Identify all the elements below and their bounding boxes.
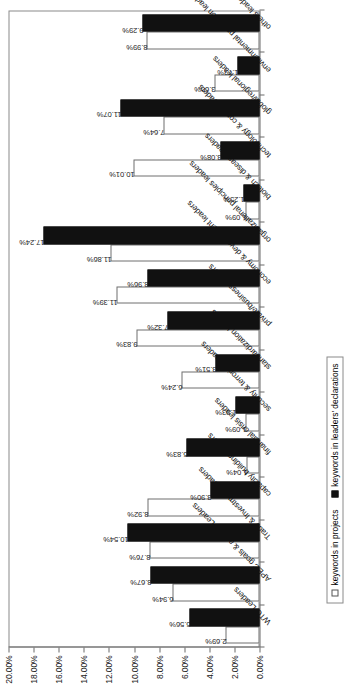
rotated-figure-wrapper: 2.69%5.56%6.94%8.67%8.76%10.54%8.92%3.90… (0, 0, 351, 695)
value-axis-tick-label: 12.00% (103, 655, 113, 683)
value-axis-tick (184, 647, 185, 652)
bar-value-label: 7.32% (147, 322, 168, 331)
category-axis-tick (259, 9, 264, 10)
value-axis-tick-label: 6.00% (179, 655, 189, 679)
category-axis-tick (259, 264, 264, 265)
bar-value-label: 10.54% (103, 534, 128, 543)
bar-group: 6.94%8.67% (8, 566, 259, 601)
bar-decl: 8.96% (147, 269, 259, 286)
value-axis-tick-label: 18.00% (28, 655, 38, 683)
value-axis-tick (134, 647, 135, 652)
bar-value-label: 5.56% (169, 619, 190, 628)
bar-value-label: 3.51% (195, 364, 216, 373)
bar-group: 2.69%5.56% (8, 608, 259, 643)
value-axis-tick (234, 647, 235, 652)
legend-item-declarations: keywords in leaders' declarations (330, 363, 339, 497)
bar-proj: 2.69% (225, 626, 259, 643)
value-axis-tick (8, 647, 9, 652)
category-axis-tick (259, 476, 264, 477)
category-axis-tick (259, 349, 264, 350)
bar-value-label: 6.24% (161, 382, 182, 391)
bar-value-label: 6.94% (152, 594, 173, 603)
category-axis-tick (259, 561, 264, 562)
value-axis-tick (83, 647, 84, 652)
bar-value-label: 8.67% (130, 577, 151, 586)
bar-value-label: 8.99% (126, 42, 147, 51)
bar-value-label: 17.24% (18, 237, 43, 246)
bar-value-label: 9.29% (122, 25, 143, 34)
value-axis-tick-label: 0.00% (254, 655, 264, 679)
bar-value-label: 3.90% (190, 492, 211, 501)
bar-decl: 5.56% (189, 608, 259, 625)
value-axis-tick-label: 4.00% (204, 655, 214, 679)
bar-decl: 11.07% (120, 99, 259, 116)
category-axis-tick (259, 221, 264, 222)
value-axis-tick-label: 8.00% (154, 655, 164, 679)
bar-value-label: 7.64% (143, 127, 164, 136)
bar-value-label: 10.01% (109, 169, 134, 178)
bar-value-label: 8.96% (127, 279, 148, 288)
bar-decl: 10.54% (127, 523, 259, 540)
bar-value-label: 11.39% (92, 297, 117, 306)
chart-canvas: 2.69%5.56%6.94%8.67%8.76%10.54%8.92%3.90… (0, 0, 351, 695)
legend-label-declarations: keywords in leaders' declarations (330, 363, 339, 486)
chart-legend: keywords in projects keywords in leaders… (326, 356, 343, 603)
value-axis-tick-label: 14.00% (78, 655, 88, 683)
category-axis-tick (259, 434, 264, 435)
bar-value-label: 11.07% (96, 109, 121, 118)
category-axis-tick (259, 646, 264, 647)
value-axis-tick (209, 647, 210, 652)
value-axis-tick-label: 10.00% (129, 655, 139, 683)
category-axis-tick (259, 519, 264, 520)
bar-value-label: 8.76% (129, 552, 150, 561)
bar-decl: 9.29% (142, 14, 259, 31)
category-axis-tick (259, 179, 264, 180)
filled-square-icon (331, 490, 338, 497)
value-axis-tick (58, 647, 59, 652)
category-axis-tick (259, 306, 264, 307)
value-axis-tick-label: 2.00% (229, 655, 239, 679)
value-axis-tick (108, 647, 109, 652)
value-axis-tick (159, 647, 160, 652)
category-axis-tick (259, 391, 264, 392)
bar-decl: 8.67% (150, 566, 259, 583)
category-axis-tick (259, 51, 264, 52)
legend-label-projects: keywords in projects (330, 509, 339, 585)
value-axis-tick (33, 647, 34, 652)
bar-value-label: 2.69% (205, 636, 226, 645)
bar-value-label: 11.86% (87, 254, 112, 263)
category-axis-tick (259, 604, 264, 605)
bar-value-label: 5.83% (166, 449, 187, 458)
bar-value-label: 8.92% (127, 509, 148, 518)
hollow-square-icon (331, 589, 338, 596)
legend-item-projects: keywords in projects (330, 509, 339, 596)
category-axis-tick (259, 94, 264, 95)
value-axis-tick-label: 16.00% (53, 655, 63, 683)
category-axis-tick (259, 136, 264, 137)
value-axis-tick (259, 647, 260, 652)
value-axis-tick-label: 20.00% (3, 655, 13, 683)
bar-value-label: 9.83% (116, 339, 137, 348)
